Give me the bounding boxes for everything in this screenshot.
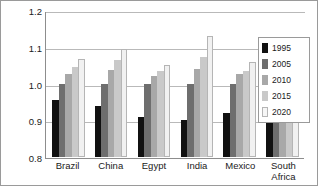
bar-group <box>90 12 133 157</box>
legend-label: 2020 <box>272 108 291 117</box>
legend-label: 2005 <box>272 60 291 69</box>
y-axis-tick-label: 1.2 <box>29 7 42 17</box>
bar-group <box>133 12 176 157</box>
legend-swatch <box>262 91 268 101</box>
y-axis-tick-label: 0.8 <box>29 154 42 164</box>
legend-swatch <box>262 43 268 53</box>
x-axis-labels: BrazilChinaEgyptIndiaMexicoSouthAfrica <box>46 160 305 182</box>
bar[interactable] <box>207 36 214 157</box>
y-axis-tick-label: 0.9 <box>29 118 42 128</box>
legend-item[interactable]: 2020 <box>262 104 309 120</box>
bar-group <box>47 12 90 157</box>
legend-item[interactable]: 1995 <box>262 40 309 56</box>
bar[interactable] <box>249 62 256 157</box>
bar-group <box>175 12 218 157</box>
legend-label: 2015 <box>272 92 291 101</box>
x-axis-label: China <box>89 160 132 182</box>
y-axis-tick-label: 1.0 <box>29 81 42 91</box>
bar[interactable] <box>121 49 128 157</box>
legend-label: 1995 <box>272 44 291 53</box>
legend-label: 2010 <box>272 76 291 85</box>
legend-item[interactable]: 2010 <box>262 72 309 88</box>
x-axis-label: India <box>176 160 219 182</box>
chart-legend: 19952005201020152020 <box>258 37 310 123</box>
bar-group <box>218 12 261 157</box>
legend-swatch <box>262 107 268 117</box>
legend-item[interactable]: 2015 <box>262 88 309 104</box>
x-axis-label: SouthAfrica <box>262 160 305 182</box>
legend-item[interactable]: 2005 <box>262 56 309 72</box>
legend-swatch <box>262 75 268 85</box>
bar[interactable] <box>78 59 85 157</box>
x-axis-label: Egypt <box>132 160 175 182</box>
x-axis-label: Brazil <box>46 160 89 182</box>
bar[interactable] <box>164 65 171 157</box>
chart-figure: 0.80.91.01.11.2 BrazilChinaEgyptIndiaMex… <box>0 0 318 186</box>
legend-swatch <box>262 59 268 69</box>
y-axis-tick-label: 1.1 <box>29 44 42 54</box>
x-axis-label: Mexico <box>219 160 262 182</box>
